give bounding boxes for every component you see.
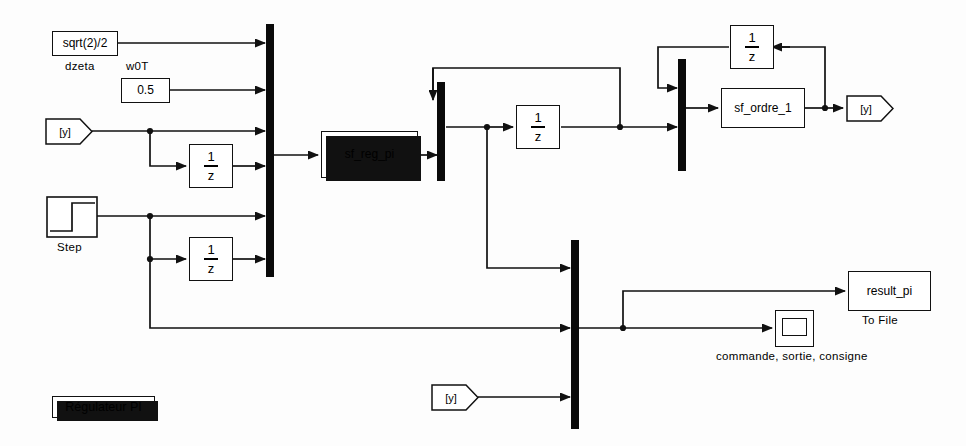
model-title-text: Régulateur PI (65, 400, 141, 414)
unit-delay-block-3[interactable]: 1 z (516, 105, 560, 149)
subsystem-block-sf-reg-pi[interactable]: sf_reg_pi (321, 131, 418, 178)
step-waveform-icon (46, 196, 98, 238)
subsystem-block-sf-ordre-1[interactable]: sf_ordre_1 (721, 88, 805, 128)
constant-dzeta-label: dzeta (65, 60, 95, 72)
scope-screen-icon (782, 318, 807, 336)
unit-delay-block-4[interactable]: 1 z (730, 25, 774, 69)
unit-delay-3-denominator: z (535, 130, 542, 143)
to-file-block-name: result_pi (867, 285, 912, 298)
mux-block-3[interactable] (571, 240, 579, 429)
unit-delay-3-fraction-bar (531, 126, 545, 127)
unit-delay-1-denominator: z (208, 169, 215, 182)
mux-block-2[interactable] (437, 82, 445, 181)
goto-block-y-tag: [y] (846, 95, 894, 122)
step-block[interactable] (46, 196, 98, 238)
from-block-y-top-tag: [y] (45, 118, 93, 145)
mux-block-1[interactable] (266, 24, 274, 277)
unit-delay-2-denominator: z (208, 262, 215, 275)
constant-block-dzeta[interactable]: sqrt(2)/2 (52, 31, 118, 56)
from-block-y-bottom[interactable]: [y] (431, 384, 479, 411)
mux-block-4[interactable] (678, 59, 686, 171)
constant-block-w0t[interactable]: 0.5 (121, 78, 170, 103)
unit-delay-4-fraction-bar (745, 46, 759, 47)
simulink-model-canvas[interactable]: sqrt(2)/2 dzeta w0T 0.5 [y] 1 z Step 1 z… (0, 0, 966, 446)
constant-w0t-value: 0.5 (137, 84, 154, 97)
unit-delay-3-numerator: 1 (534, 111, 541, 124)
unit-delay-4-denominator: z (749, 50, 756, 63)
subsystem-sf-reg-pi-name: sf_reg_pi (345, 148, 394, 161)
from-block-y-bottom-tag: [y] (431, 384, 479, 411)
to-file-block-label: To File (862, 314, 898, 326)
constant-w0t-label: w0T (126, 60, 149, 72)
subsystem-sf-ordre-1-name: sf_ordre_1 (734, 102, 791, 115)
scope-block-label: commande, sortie, consigne (716, 350, 868, 362)
to-file-block[interactable]: result_pi (848, 271, 931, 311)
unit-delay-1-fraction-bar (204, 165, 218, 166)
unit-delay-2-numerator: 1 (207, 243, 214, 256)
from-block-y-top[interactable]: [y] (45, 118, 93, 145)
step-block-label: Step (57, 241, 82, 253)
unit-delay-4-numerator: 1 (748, 31, 755, 44)
unit-delay-block-2[interactable]: 1 z (189, 237, 233, 281)
goto-block-y[interactable]: [y] (846, 95, 894, 122)
unit-delay-1-numerator: 1 (207, 150, 214, 163)
scope-block[interactable] (775, 310, 814, 347)
unit-delay-2-fraction-bar (204, 258, 218, 259)
model-title-annotation[interactable]: Régulateur PI (52, 396, 155, 418)
constant-dzeta-value: sqrt(2)/2 (63, 37, 108, 50)
unit-delay-block-1[interactable]: 1 z (189, 144, 233, 188)
